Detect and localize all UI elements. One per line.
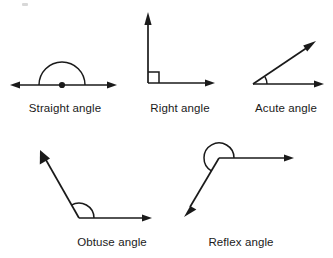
obtuse-angle-label: Obtuse angle [77, 236, 147, 248]
acute-angle-diagonal-ray [253, 47, 308, 84]
diagram-acute-angle: Acute angle [253, 41, 324, 114]
right-angle-right-arrowhead [205, 79, 215, 86]
obtuse-angle-right-arrowhead [142, 214, 152, 221]
straight-angle-right-arrowhead [107, 81, 117, 88]
diagram-obtuse-angle: Obtuse angle [40, 150, 152, 248]
acute-angle-label: Acute angle [255, 102, 317, 114]
acute-angle-right-arrowhead [314, 80, 324, 87]
obtuse-angle-diagonal-arrowhead [40, 150, 50, 164]
straight-angle-left-arrowhead [10, 81, 20, 88]
diagram-reflex-angle: Reflex angle [184, 143, 294, 248]
right-angle-square-marker [148, 72, 159, 83]
straight-angle-arc-marker [39, 62, 85, 85]
reflex-angle-right-arrowhead [284, 154, 294, 161]
right-angle-label: Right angle [150, 102, 209, 114]
reflex-angle-arc-marker [204, 143, 234, 171]
straight-angle-label: Straight angle [29, 102, 101, 114]
reflex-angle-diagonal-arrowhead [184, 206, 196, 217]
diagram-straight-angle: Straight angle [10, 62, 117, 114]
acute-angle-diagonal-arrowhead [303, 41, 316, 52]
acute-angle-arc-marker [265, 77, 267, 84]
scan-artifact-speck [22, 3, 28, 6]
reflex-angle-label: Reflex angle [208, 236, 273, 248]
right-angle-up-arrowhead [144, 12, 151, 25]
angles-figure: Straight angle Right angle Acute angle [0, 0, 333, 258]
reflex-angle-diagonal-ray [190, 158, 219, 207]
angles-diagram-canvas: Straight angle Right angle Acute angle [0, 0, 333, 258]
obtuse-angle-diagonal-ray [46, 160, 79, 218]
straight-angle-vertex-dot [59, 82, 65, 88]
diagram-right-angle: Right angle [144, 12, 215, 114]
